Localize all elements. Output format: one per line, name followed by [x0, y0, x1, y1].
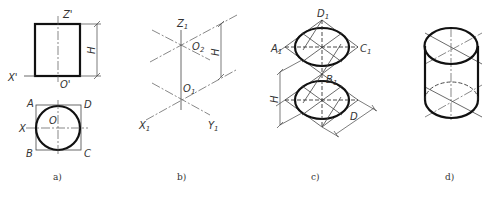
top-view: A D X O B C: [18, 98, 92, 159]
label-diameter: D: [350, 111, 358, 122]
dimension-tick: [334, 131, 338, 137]
label-a1: A1: [270, 43, 282, 56]
extension-line: [280, 113, 302, 125]
front-view: Z' X' O' H: [7, 9, 101, 90]
label-a: A: [26, 98, 34, 109]
extension-line: [322, 127, 339, 137]
dimension-tick: [372, 105, 376, 111]
caption-a: a): [53, 172, 62, 182]
label-d: D: [84, 99, 92, 110]
label-o: O: [49, 115, 57, 126]
label-o1: O1: [183, 83, 195, 96]
label-z1: Z1: [176, 18, 188, 31]
label-b1: B1: [326, 74, 337, 87]
label-height: H: [210, 48, 221, 56]
caption-b: b): [177, 172, 186, 182]
cylinder-isometric-figure: Z' X' O' H A D X O B C a): [0, 0, 488, 197]
label-o-prime: O': [60, 79, 71, 90]
bottom-visible-arc: [425, 100, 478, 118]
label-c: C: [84, 148, 91, 159]
front-view-rectangle: [35, 24, 80, 76]
label-height: H: [86, 46, 97, 54]
panel-c: H D D1 A1 C1 B1 c): [269, 8, 377, 182]
panel-b: H Z1 O2 O1 X1 Y1 b): [138, 15, 237, 182]
label-d1: D1: [317, 8, 329, 21]
label-z-prime: Z': [62, 9, 73, 20]
panel-a: Z' X' O' H A D X O B C a): [7, 9, 101, 182]
label-x-prime: X': [7, 72, 18, 83]
panel-d: d): [425, 28, 483, 182]
label-y1: Y1: [208, 120, 219, 133]
o2-axis-y: [150, 15, 237, 62]
label-c1: C1: [360, 43, 371, 56]
label-x1: X1: [138, 120, 150, 133]
extension-line: [280, 60, 302, 72]
label-b: B: [26, 148, 33, 159]
caption-d: d): [445, 172, 454, 182]
caption-c: c): [311, 172, 320, 182]
label-x: X: [18, 123, 27, 134]
extension-line: [358, 100, 377, 111]
label-height: H: [269, 95, 280, 103]
